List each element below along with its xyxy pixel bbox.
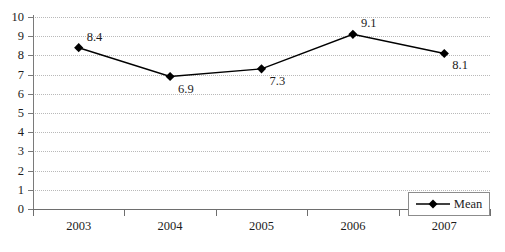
data-point-label: 7.3 — [270, 75, 286, 88]
data-point-label: 8.4 — [87, 31, 103, 44]
data-point-marker — [74, 43, 83, 52]
legend[interactable]: Mean — [408, 192, 490, 216]
data-point-marker — [166, 72, 175, 81]
legend-label-mean: Mean — [454, 198, 482, 211]
series-markers — [74, 30, 449, 81]
data-point-marker — [440, 49, 449, 58]
data-point-label: 8.1 — [452, 59, 468, 72]
line-chart: 012345678910 20032004200520062007 8.46.9… — [0, 0, 505, 252]
legend-marker-icon — [416, 198, 450, 210]
data-point-label: 6.9 — [178, 83, 194, 96]
data-point-label: 9.1 — [361, 17, 377, 30]
data-point-marker — [257, 64, 266, 73]
data-point-marker — [348, 30, 357, 39]
